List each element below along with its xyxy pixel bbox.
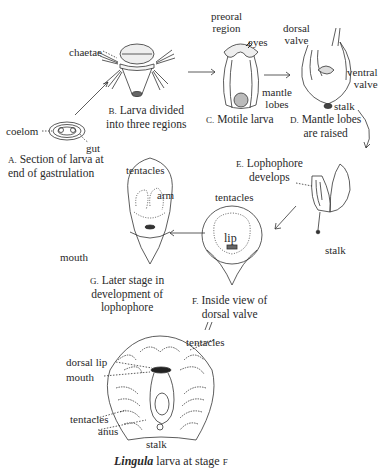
stage-f-drawing xyxy=(202,206,262,285)
label-lip: lip xyxy=(224,232,237,244)
lingula-drawing xyxy=(107,336,214,440)
label-stalk-bottom: stalk xyxy=(146,438,167,450)
title-stage: F xyxy=(223,457,228,467)
caption-c-letter: C. xyxy=(206,115,214,125)
caption-d: D. Mantle lobes are raised xyxy=(290,113,361,140)
caption-b-letter: B. xyxy=(109,106,117,116)
stage-a-drawing xyxy=(42,122,88,142)
caption-c: C. Motile larva xyxy=(206,113,274,127)
caption-b-line2: into three regions xyxy=(106,118,186,130)
caption-a-line2: end of gastrulation xyxy=(8,167,94,179)
label-mantle-line1: mantle xyxy=(262,86,292,98)
stage-b-drawing xyxy=(98,44,175,97)
caption-b: B. Larva divided into three regions xyxy=(106,104,186,131)
stage-c-drawing xyxy=(223,42,258,109)
caption-a-letter: A. xyxy=(8,155,17,165)
label-stalk-e: stalk xyxy=(325,244,346,256)
caption-e-letter: E. xyxy=(236,159,244,169)
caption-e: E. Lophophore develops xyxy=(236,157,303,184)
caption-g-letter: G. xyxy=(90,276,99,286)
caption-a-line1: Section of larva at xyxy=(20,153,104,165)
label-preoral-line2: region xyxy=(213,22,241,34)
caption-g-line1: Later stage in xyxy=(102,274,165,286)
caption-f-letter: F. xyxy=(192,296,199,306)
label-mouth-bottom: mouth xyxy=(66,371,94,383)
label-mouth-g: mouth xyxy=(60,251,88,263)
label-preoral-region: preoral region xyxy=(211,10,242,34)
caption-f-line2: dorsal valve xyxy=(202,308,258,320)
label-preoral-line1: preoral xyxy=(211,10,242,22)
label-mantle-line2: lobes xyxy=(265,98,288,110)
label-coelom: coelom xyxy=(6,125,38,137)
label-dorsal-valve-line1: dorsal xyxy=(283,22,310,34)
stage-e-drawing xyxy=(296,164,350,234)
caption-f-line1: Inside view of xyxy=(201,294,267,306)
label-dorsal-lip: dorsal lip xyxy=(66,356,107,368)
label-tentacles-f: tentacles xyxy=(215,191,253,203)
label-arm: arm xyxy=(157,189,174,201)
caption-e-line1: Lophophore xyxy=(247,157,303,169)
label-anus: anus xyxy=(98,425,118,437)
caption-e-line2: develops xyxy=(249,171,290,183)
diagram-artwork xyxy=(0,0,388,469)
label-ventral-valve: ventral valve xyxy=(347,66,378,90)
label-tentacles-top: tentacles xyxy=(186,336,224,348)
caption-d-line2: are raised xyxy=(303,127,347,139)
caption-a: A. Section of larva at end of gastrulati… xyxy=(8,153,104,180)
label-stalk-d: stalk xyxy=(334,100,355,112)
caption-d-line1: Mantle lobes xyxy=(302,113,362,125)
caption-d-letter: D. xyxy=(290,115,299,125)
label-ventral-valve-line1: ventral xyxy=(347,66,378,78)
label-dorsal-valve-line2: valve xyxy=(285,34,309,46)
label-chaetae: chaetae xyxy=(69,46,102,58)
title-rest: larva at stage xyxy=(153,454,222,468)
caption-g: G. Later stage in development of lophoph… xyxy=(90,274,164,314)
label-eyes: eyes xyxy=(248,36,268,48)
label-ventral-valve-line2: valve xyxy=(348,78,378,90)
figure-title: Lingula larva at stage F xyxy=(114,455,228,469)
caption-c-line1: Motile larva xyxy=(217,113,274,125)
label-tentacles-g: tentacles xyxy=(126,164,164,176)
caption-b-line1: Larva divided xyxy=(120,104,184,116)
caption-g-line2: development of xyxy=(91,288,163,300)
caption-f: F. Inside view of dorsal valve xyxy=(192,294,267,321)
label-mantle-lobes: mantle lobes xyxy=(262,86,292,110)
label-tentacles-bottom: tentacles xyxy=(70,413,108,425)
title-genus: Lingula xyxy=(114,454,153,468)
label-dorsal-valve: dorsal valve xyxy=(283,22,310,46)
caption-g-line3: lophophore xyxy=(101,301,153,313)
